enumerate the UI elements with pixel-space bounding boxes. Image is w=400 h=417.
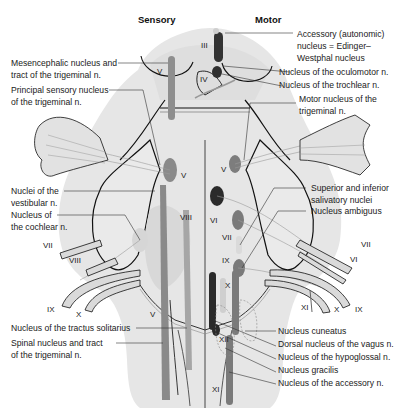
- label-edinger-westphal: Accessory (autonomic): [297, 29, 385, 39]
- label-motor-nucleus-trigeminal-line2: trigeminal n.: [299, 106, 346, 116]
- label-spinal-nucleus-trigeminal: Spinal nucleus and tract: [11, 338, 103, 348]
- label-vestibular-nuclei-line2: vestibular n.: [11, 198, 57, 208]
- label-nucleus-ambiguus: Nucleus ambiguus: [311, 206, 382, 216]
- label-nucleus-gracilis: Nucleus gracilis: [278, 365, 338, 375]
- numeral-v-top: V: [157, 67, 163, 76]
- numeral-vii-left: VII: [43, 241, 53, 250]
- label-accessory-nucleus: Nucleus of the accessory n.: [278, 378, 384, 388]
- dorsal-vagal-nucleus: [209, 272, 216, 330]
- header-motor: Motor: [255, 14, 282, 25]
- numeral-ix-left: IX: [47, 305, 55, 314]
- label-cochlear-nucleus: Nucleus of: [11, 210, 52, 220]
- label-spinal-nucleus-trigeminal-line2: of the trigeminal n.: [11, 350, 82, 360]
- numeral-vii-right: VII: [361, 240, 371, 249]
- numeral-xi-inner: XI: [212, 385, 220, 394]
- label-principal-sensory-nucleus: Principal sensory nucleus: [11, 85, 108, 95]
- label-edinger-westphal-line3: Westphal nucleus: [297, 53, 365, 63]
- salivatory-nuclei: [236, 236, 242, 254]
- label-principal-sensory-nucleus-line2: of the trigeminal n.: [11, 97, 82, 107]
- brainstem-cranial-nerve-nuclei-diagram: Sensory Motor: [0, 0, 400, 417]
- numeral-iv: IV: [200, 75, 208, 84]
- label-mesencephalic-nucleus-line2: tract of the trigeminal n.: [11, 70, 101, 80]
- numeral-iii: III: [201, 41, 208, 50]
- label-salivatory-nuclei: Superior and inferior: [311, 183, 389, 193]
- edinger-westphal-nucleus: [213, 28, 219, 34]
- mesencephalic-nucleus-v: [168, 56, 175, 120]
- label-motor-nucleus-trigeminal: Motor nucleus of the: [299, 94, 377, 104]
- nucleus-ambiguus-column: [232, 270, 239, 335]
- label-salivatory-nuclei-line2: salivatory nuclei: [311, 195, 372, 205]
- label-oculomotor-nucleus: Nucleus of the oculomotor n.: [279, 67, 388, 77]
- numeral-viii-left: VIII: [69, 256, 81, 265]
- label-mesencephalic-nucleus: Mesencephalic nucleus and: [11, 58, 117, 68]
- numeral-viii: VIII: [180, 213, 192, 222]
- numeral-ix-inner: IX: [222, 256, 230, 265]
- label-trochlear-nucleus: Nucleus of the trochlear n.: [279, 80, 379, 90]
- label-dorsal-vagal-nucleus: Dorsal nucleus of the vagus n.: [278, 339, 394, 349]
- numeral-x-left: X: [76, 310, 82, 319]
- numeral-xii: XII: [219, 335, 229, 344]
- numeral-x-inner: X: [225, 281, 231, 290]
- label-tractus-solitarius: Nucleus of the tractus solitarius: [11, 323, 130, 333]
- label-hypoglossal-nucleus: Nucleus of the hypoglossal n.: [278, 352, 390, 362]
- numeral-vii-inner: VII: [222, 233, 232, 242]
- numeral-v-spinal: V: [150, 310, 156, 319]
- numeral-vi: VI: [210, 216, 218, 225]
- numeral-x-right: X: [334, 305, 340, 314]
- label-cochlear-nucleus-line2: the cochlear n.: [11, 222, 67, 232]
- numeral-v-sensory: V: [181, 171, 187, 180]
- numeral-ix-right: IX: [355, 305, 363, 314]
- accessory-nucleus: [226, 335, 233, 405]
- numeral-v-motor: V: [221, 165, 227, 174]
- oculomotor-nucleus: [214, 32, 223, 62]
- label-edinger-westphal-line2: nucleus = Edinger–: [297, 41, 371, 51]
- header-sensory: Sensory: [138, 14, 176, 25]
- numeral-xi-right: XI: [301, 303, 309, 312]
- trochlear-nucleus: [212, 66, 222, 78]
- label-vestibular-nuclei: Nuclei of the: [11, 186, 59, 196]
- label-nucleus-cuneatus: Nucleus cuneatus: [278, 326, 346, 336]
- numeral-vi-right: VI: [350, 255, 358, 264]
